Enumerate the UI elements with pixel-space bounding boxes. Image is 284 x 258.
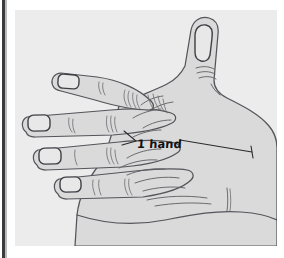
hand-illustration-svg: .ink { fill: none; stroke: #54545a; stro… bbox=[15, 10, 277, 246]
ring-fingernail bbox=[39, 148, 61, 164]
page-canvas: .ink { fill: none; stroke: #54545a; stro… bbox=[0, 0, 284, 258]
middle-fingernail bbox=[28, 115, 50, 131]
page-left-rule-shadow bbox=[5, 0, 7, 258]
little-fingernail bbox=[60, 177, 81, 192]
index-fingernail bbox=[58, 74, 80, 89]
thumbnail bbox=[195, 25, 212, 61]
hand-span-label: 1 hand bbox=[137, 137, 183, 151]
hand-span-diagram: .ink { fill: none; stroke: #54545a; stro… bbox=[15, 10, 277, 246]
